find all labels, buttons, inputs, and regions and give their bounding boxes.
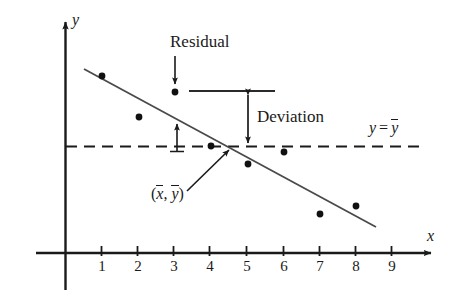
mean-line-eq-operator: = [376,119,391,136]
x-tick-label-1: 1 [92,259,112,274]
residual-label: Residual [170,33,230,50]
mean-line-eq-rhs: y [391,120,398,136]
deviation-label: Deviation [257,108,324,125]
x-axis-ticks [102,246,392,256]
x-tick-label-7: 7 [310,259,330,274]
figure-canvas [0,0,460,300]
axes-group [36,22,431,290]
data-point-5 [245,161,252,168]
data-point-3 [172,89,179,96]
x-tick-label-5: 5 [237,259,257,274]
centroid-paren-close: ) [179,185,184,202]
centroid-label: (x,y) [151,186,184,202]
x-tick-label-6: 6 [274,259,294,274]
mean-line-equation: y=y [369,120,398,136]
x-axis-label: x [427,228,434,244]
data-point-8 [353,203,360,210]
data-point-6 [281,149,288,156]
x-tick-label-3: 3 [164,259,184,274]
regression-line [84,69,376,227]
data-point-4 [208,143,215,150]
x-tick-label-8: 8 [346,259,366,274]
y-axis-label: y [72,12,79,28]
x-tick-label-9: 9 [382,259,402,274]
centroid-x-bar: x [156,186,163,202]
data-point-1 [99,73,106,80]
regression-residual-deviation-figure: y x 1 2 3 4 5 6 7 8 9 Residual Deviation… [0,0,460,300]
x-tick-label-2: 2 [128,259,148,274]
scatter-points [99,73,360,218]
residual-small-arrow [170,124,184,152]
x-tick-label-4: 4 [200,259,220,274]
data-point-7 [317,211,324,218]
centroid-y-bar: y [171,186,178,202]
data-point-2 [136,114,143,121]
centroid-leader-arrow [187,150,229,191]
